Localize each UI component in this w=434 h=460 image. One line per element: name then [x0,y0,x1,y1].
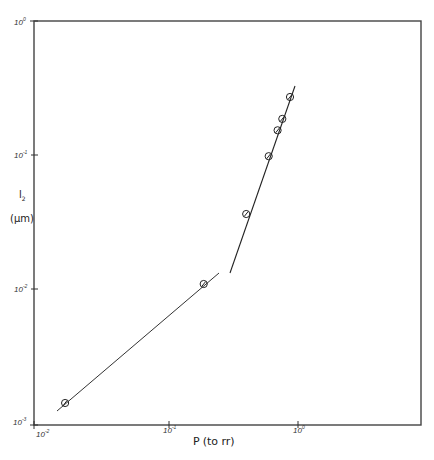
chart-canvas: 100 10-1 10-2 10-3 10-2 10-1 100 l2 (μm)… [0,0,434,460]
y-tick-label-1e-2: 10-2 [14,283,28,294]
y-tick-label-1e0: 100 [14,16,26,27]
x-axis-label: P(to rr) [193,435,235,448]
x-tick-label-1e-2: 10-2 [36,428,50,439]
fit-line-low-pressure [57,273,219,411]
plot-frame [34,21,421,425]
data-points [62,93,294,406]
y-tick-label-1e-1: 10-1 [14,149,28,160]
data-point-slash [244,212,248,217]
x-tick-label-1e0: 100 [293,424,305,435]
fit-line-high-pressure [230,86,295,273]
y-axis-unit: (μm) [10,213,34,224]
y-tick-label-1e-3: 10-3 [13,416,27,427]
y-axis-label: l2 [19,189,26,202]
x-tick-label-1e-1: 10-1 [163,424,177,435]
